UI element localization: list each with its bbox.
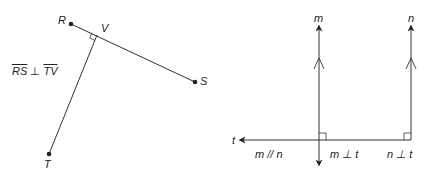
line-t-label: t [232,135,235,146]
right-angle-marker-n [404,133,411,140]
geometry-diagram: R V S T RS ⊥ TV m n t m // n m ⊥ t n ⊥ t [0,0,431,177]
point-r [69,22,74,27]
point-v-label: V [101,23,108,34]
point-s-label: S [200,76,207,87]
parallel-statement: m // n [255,149,283,160]
point-t-label: T [44,159,51,170]
point-s [193,80,198,85]
diagram-drawing [0,0,431,177]
point-r-label: R [58,15,66,26]
left-figure [47,22,198,157]
line-m-label: m [314,13,323,24]
n-perp-t-statement: n ⊥ t [387,149,412,160]
m-perp-t-statement: m ⊥ t [330,149,358,160]
point-t [47,152,52,157]
right-angle-marker-m [319,133,326,140]
line-n-label: n [408,13,414,24]
segment-tv-label: TV [43,65,57,77]
perpendicular-statement: RS ⊥ TV [12,66,57,77]
perpendicular-symbol: ⊥ [30,65,40,77]
segment-rs-label: RS [12,65,27,77]
right-figure [240,26,416,165]
segment-tv [49,35,97,154]
